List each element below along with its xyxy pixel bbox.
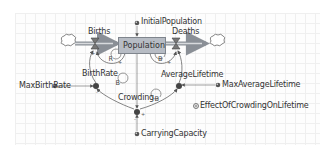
population-stock-label: Population (123, 41, 165, 50)
population-stock[interactable]: Population (118, 37, 166, 54)
initialpopulation-label: InitialPopulation (141, 18, 202, 26)
crowding-label: Crowding (118, 94, 154, 102)
carryingcapacity-param-icon[interactable] (135, 132, 140, 137)
svg-text:+: + (141, 111, 145, 117)
maxaveragelifetime-param-icon[interactable] (216, 83, 221, 88)
svg-text:-: - (134, 116, 136, 122)
source-cloud-icon (61, 34, 76, 46)
sink-cloud-icon (210, 34, 225, 46)
averagelifetime-label: AverageLifetime (161, 71, 223, 79)
maxbirthrate-label: MaxBirthRate (19, 82, 71, 90)
svg-text:-: - (96, 89, 98, 95)
svg-text:B: B (158, 55, 162, 63)
svg-text:+: + (167, 59, 171, 65)
initialpopulation-param-icon[interactable] (135, 21, 140, 26)
diagram-canvas: R B B B + + - - + + Population Births De… (0, 0, 320, 145)
effectofcrowding-table-icon[interactable] (194, 104, 199, 109)
svg-text:B: B (116, 79, 120, 87)
svg-text:+: + (118, 59, 122, 65)
effectofcrowding-label: EffectOfCrowdingOnLifetime (200, 102, 309, 110)
births-flow-label: Births (88, 28, 110, 36)
svg-text:R: R (109, 55, 114, 63)
svg-text:+: + (91, 50, 95, 56)
svg-text:B: B (155, 95, 159, 103)
birthrate-label: BirthRate (82, 70, 118, 78)
deaths-flow-label: Deaths (172, 28, 199, 36)
maxaveragelifetime-label: MaxAverageLifetime (222, 81, 300, 89)
crowding-node[interactable] (134, 109, 140, 115)
averagelifetime-node[interactable] (176, 83, 182, 89)
carryingcapacity-label: CarryingCapacity (141, 130, 207, 138)
